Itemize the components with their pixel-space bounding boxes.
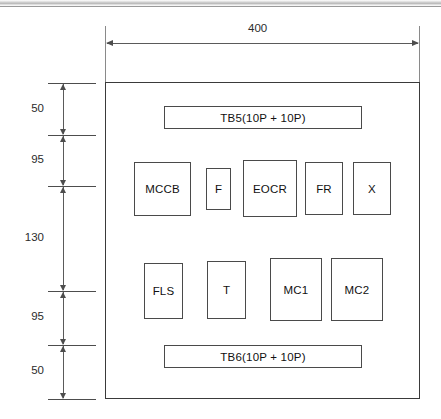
dimension-line-segment (63, 292, 64, 344)
dimension-label-segment-1: 50 (22, 102, 44, 114)
component-f[interactable]: F (206, 168, 231, 210)
dimension-tick (48, 135, 96, 136)
arrow-right-icon (412, 40, 419, 46)
arrow-down-icon (60, 393, 66, 399)
dimension-line-width (107, 43, 418, 44)
component-fr[interactable]: FR (305, 162, 343, 215)
witness-line-right (419, 26, 420, 82)
terminal-block-tb6[interactable]: TB6(10P + 10P) (164, 345, 362, 368)
component-fls[interactable]: FLS (144, 263, 183, 319)
arrow-down-icon (60, 339, 66, 345)
component-t[interactable]: T (207, 261, 246, 319)
dimension-line-segment (63, 84, 64, 134)
witness-line-left (105, 26, 106, 82)
dimension-tick (48, 291, 96, 292)
arrow-down-icon (60, 180, 66, 186)
dimension-tick (48, 186, 96, 187)
dimension-label-segment-3: 130 (15, 231, 44, 243)
dimension-tick (48, 83, 96, 84)
arrow-up-icon (60, 136, 66, 142)
arrow-up-icon (60, 292, 66, 298)
drawing-canvas: 400 50 95 130 95 50 (0, 0, 441, 419)
dimension-label-segment-2: 95 (22, 153, 44, 165)
dimension-label-segment-5: 50 (22, 364, 44, 376)
arrow-up-icon (60, 346, 66, 352)
arrow-down-icon (60, 285, 66, 291)
dimension-label-width: 400 (248, 22, 267, 34)
component-eocr[interactable]: EOCR (243, 160, 297, 217)
component-x[interactable]: X (353, 162, 391, 215)
component-mc1[interactable]: MC1 (270, 258, 322, 321)
dimension-line-segment (63, 346, 64, 398)
component-mc2[interactable]: MC2 (331, 258, 383, 321)
dimension-tick (48, 345, 96, 346)
arrow-down-icon (60, 129, 66, 135)
component-mccb[interactable]: MCCB (134, 162, 191, 216)
arrow-left-icon (106, 40, 113, 46)
dimension-line-segment (63, 187, 64, 290)
dimension-line-segment (63, 136, 64, 185)
terminal-block-tb5[interactable]: TB5(10P + 10P) (164, 106, 362, 129)
scan-artifact-rule (0, 6, 441, 7)
dimension-tick (48, 399, 96, 400)
dimension-label-segment-4: 95 (22, 310, 44, 322)
arrow-up-icon (60, 84, 66, 90)
arrow-up-icon (60, 187, 66, 193)
